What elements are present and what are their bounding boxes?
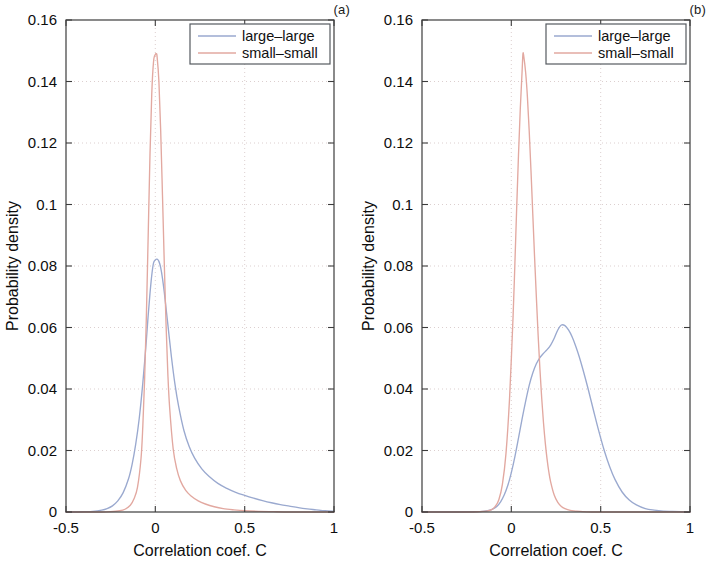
panel-b-tag: (b): [690, 2, 707, 17]
x-tick-label: 1: [686, 519, 694, 536]
panel-b: (b) 00.020.040.060.080.10.120.140.16-0.5…: [356, 0, 712, 567]
tick-labels: 00.020.040.060.080.10.120.140.16-0.500.5…: [28, 11, 338, 536]
series-line-small-small: [66, 53, 334, 512]
y-tick-label: 0: [405, 503, 413, 520]
legend-label-0: large–large: [598, 28, 671, 44]
y-tick-label: 0.16: [28, 11, 57, 28]
x-tick-label: 0.5: [234, 519, 255, 536]
y-tick-label: 0.12: [28, 134, 57, 151]
y-tick-label: 0.08: [28, 257, 57, 274]
x-tick-label: 0: [507, 519, 515, 536]
y-axis-label: Probability density: [4, 201, 21, 331]
panel-a-tag: (a): [334, 2, 351, 17]
y-tick-label: 0.02: [28, 442, 57, 459]
y-tick-label: 0.12: [384, 134, 413, 151]
legend: large–largesmall–small: [190, 24, 330, 64]
panel-b-plot: 00.020.040.060.080.10.120.140.16-0.500.5…: [356, 0, 712, 567]
legend-label-0: large–large: [242, 28, 315, 44]
y-axis-label: Probability density: [360, 201, 377, 331]
panel-a-plot: 00.020.040.060.080.10.120.140.16-0.500.5…: [0, 0, 356, 567]
y-tick-label: 0.04: [28, 380, 57, 397]
x-tick-label: -0.5: [53, 519, 79, 536]
y-tick-label: 0.04: [384, 380, 413, 397]
y-tick-label: 0.14: [28, 73, 57, 90]
x-axis-label: Correlation coef. C: [133, 542, 266, 559]
tick-labels: 00.020.040.060.080.10.120.140.16-0.500.5…: [384, 11, 694, 536]
y-tick-label: 0.14: [384, 73, 413, 90]
data-curves: [422, 53, 690, 512]
x-tick-label: 1: [330, 519, 338, 536]
x-axis-label: Correlation coef. C: [489, 542, 622, 559]
series-line-large-large: [422, 325, 690, 512]
y-tick-label: 0.06: [28, 319, 57, 336]
data-curves: [66, 53, 334, 512]
y-tick-label: 0.1: [36, 196, 57, 213]
figure-two-panel-probability-density: (a) 00.020.040.060.080.10.120.140.16-0.5…: [0, 0, 712, 567]
series-line-large-large: [66, 259, 334, 512]
y-tick-label: 0: [49, 503, 57, 520]
y-tick-label: 0.06: [384, 319, 413, 336]
legend: large–largesmall–small: [546, 24, 686, 64]
x-tick-label: 0.5: [590, 519, 611, 536]
y-tick-label: 0.16: [384, 11, 413, 28]
gridlines: [422, 20, 690, 512]
panel-a: (a) 00.020.040.060.080.10.120.140.16-0.5…: [0, 0, 356, 567]
y-tick-label: 0.08: [384, 257, 413, 274]
legend-label-1: small–small: [598, 45, 674, 61]
y-tick-label: 0.02: [384, 442, 413, 459]
gridlines: [66, 20, 334, 512]
x-tick-label: -0.5: [409, 519, 435, 536]
series-line-small-small: [422, 53, 690, 512]
legend-label-1: small–small: [242, 45, 318, 61]
y-tick-label: 0.1: [392, 196, 413, 213]
x-tick-label: 0: [151, 519, 159, 536]
